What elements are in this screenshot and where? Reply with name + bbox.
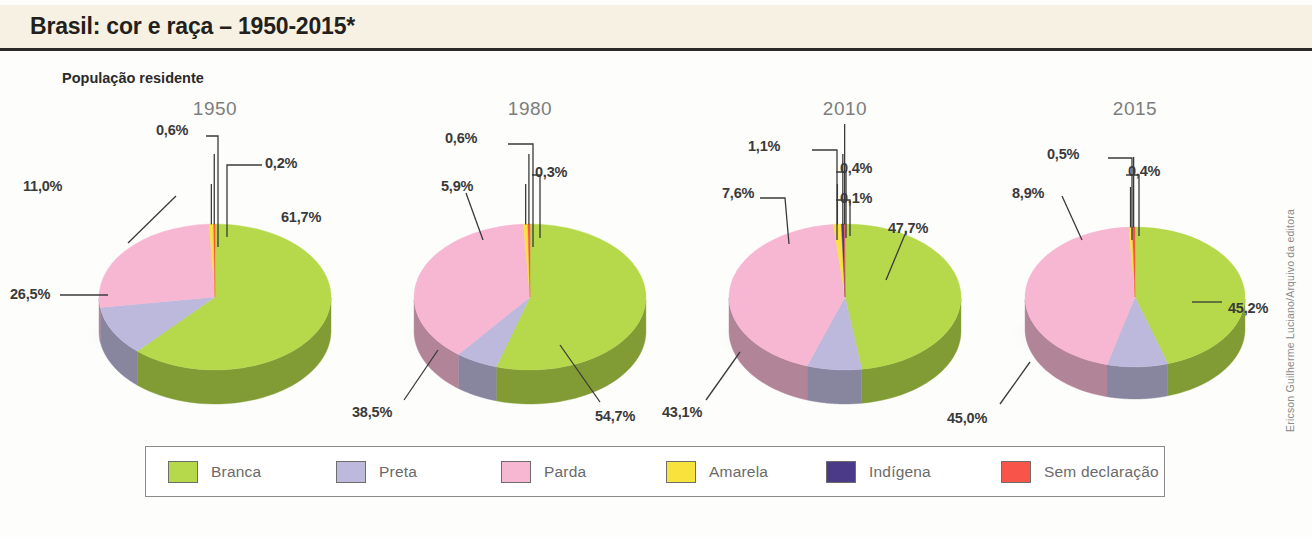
label-2010-amarela: 1,1% [748, 138, 780, 154]
pie-group-2015: 2015 [0, 0, 1312, 440]
pie-svg-2015 [0, 0, 1312, 440]
label-1980-parda: 38,5% [352, 404, 392, 420]
label-2010-sem: 0,1% [840, 190, 872, 206]
legend-swatch-icon [826, 461, 856, 483]
legend-label: Sem declaração [1044, 463, 1159, 481]
legend-item-ind-gena[interactable]: Indígena [826, 461, 931, 483]
chart-figure: Brasil: cor e raça – 1950-2015* Populaçã… [0, 0, 1312, 537]
label-1980-amarela: 0,6% [445, 130, 477, 146]
label-2010-parda: 43,1% [662, 404, 702, 420]
legend-swatch-icon [501, 461, 531, 483]
legend-item-preta[interactable]: Preta [336, 461, 417, 483]
label-2015-branca: 45,2% [1228, 300, 1268, 316]
label-2015-sem: 0,4% [1128, 163, 1160, 179]
legend-item-sem-declara-o[interactable]: Sem declaração [1001, 461, 1159, 483]
legend-item-parda[interactable]: Parda [501, 461, 586, 483]
label-1950-sem: 0,2% [265, 155, 297, 171]
image-credit: Ericson Guilherme Luciano/Arquivo da edi… [1284, 209, 1296, 432]
legend: BrancaPretaPardaAmarelaIndígenaSem decla… [145, 446, 1165, 497]
label-2010-indigena: 0,4% [840, 160, 872, 176]
label-1950-parda: 26,5% [10, 286, 50, 302]
legend-label: Branca [211, 463, 261, 481]
label-1950-branca: 61,7% [281, 209, 321, 225]
label-2010-preta: 7,6% [722, 185, 754, 201]
legend-swatch-icon [1001, 461, 1031, 483]
legend-swatch-icon [666, 461, 696, 483]
legend-swatch-icon [168, 461, 198, 483]
label-1980-preta: 5,9% [441, 178, 473, 194]
legend-item-amarela[interactable]: Amarela [666, 461, 768, 483]
label-1950-preta: 11,0% [23, 178, 62, 194]
legend-label: Preta [379, 463, 417, 481]
label-1980-branca: 54,7% [595, 408, 635, 424]
label-2010-branca: 47,7% [888, 220, 928, 236]
label-2015-parda: 45,0% [947, 410, 987, 426]
credit-holder: Ericson Guilherme Luciano/Arquivo da edi… [1296, 92, 1312, 432]
legend-label: Indígena [869, 463, 931, 481]
label-2015-preta: 8,9% [1012, 185, 1044, 201]
legend-label: Parda [544, 463, 586, 481]
legend-label: Amarela [709, 463, 768, 481]
legend-swatch-icon [336, 461, 366, 483]
label-1950-amarela: 0,6% [156, 122, 188, 138]
label-2015-amarela: 0,5% [1047, 146, 1079, 162]
label-1980-sem: 0,3% [535, 164, 567, 180]
legend-item-branca[interactable]: Branca [168, 461, 261, 483]
